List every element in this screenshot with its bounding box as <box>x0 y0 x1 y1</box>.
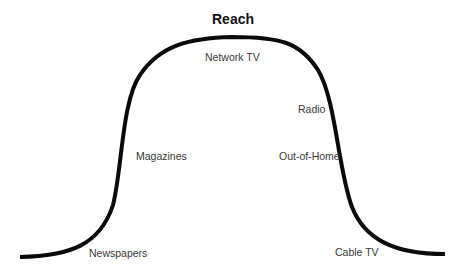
reach-curve <box>0 0 466 279</box>
label-newspapers: Newspapers <box>89 247 147 259</box>
label-out-of-home: Out-of-Home <box>279 150 340 162</box>
label-magazines: Magazines <box>136 150 187 162</box>
label-network-tv: Network TV <box>205 51 260 63</box>
label-radio: Radio <box>298 103 325 115</box>
bell-curve-line <box>20 37 445 257</box>
label-cable-tv: Cable TV <box>335 246 379 258</box>
reach-curve-diagram: Reach Network TV Radio Magazines Out-of-… <box>0 0 466 279</box>
